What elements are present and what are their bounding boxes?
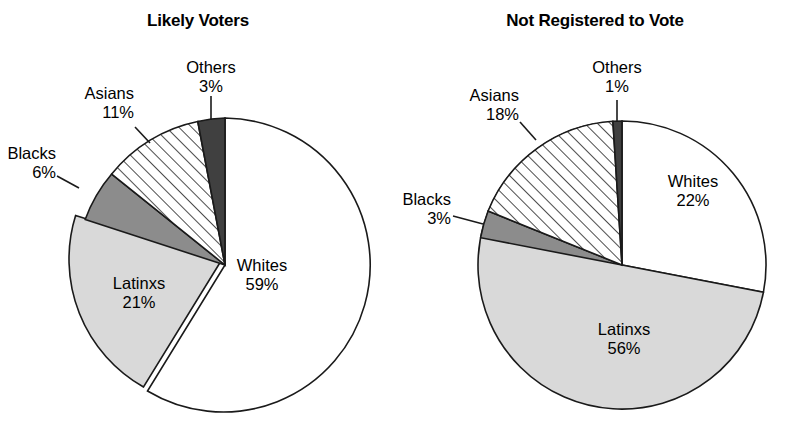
slice-label-others-name: Others	[567, 58, 667, 77]
slice-label-others: Others 3%	[161, 58, 261, 96]
slice-label-blacks: Blacks 6%	[0, 144, 56, 182]
slice-label-blacks-name: Blacks	[351, 190, 451, 209]
leader-line-blacks	[57, 176, 79, 188]
slice-label-whites-name: Whites	[638, 172, 748, 191]
slice-label-blacks-pct: 6%	[0, 163, 56, 182]
slice-label-others-pct: 1%	[567, 77, 667, 96]
slice-label-asians-pct: 18%	[419, 105, 519, 124]
slice-label-others-name: Others	[161, 58, 261, 77]
slice-label-blacks-name: Blacks	[0, 144, 56, 163]
slice-label-whites: Whites 22%	[638, 172, 748, 210]
slice-label-latinxs: Latinxs 21%	[84, 274, 194, 312]
slice-label-whites-name: Whites	[207, 256, 317, 275]
slice-label-latinxs-name: Latinxs	[569, 320, 679, 339]
slice-label-whites: Whites 59%	[207, 256, 317, 294]
slice-label-latinxs: Latinxs 56%	[569, 320, 679, 358]
slice-label-blacks: Blacks 3%	[351, 190, 451, 228]
slice-label-asians-pct: 11%	[34, 103, 134, 122]
slice-label-blacks-pct: 3%	[351, 209, 451, 228]
leader-line-asians	[135, 127, 150, 143]
slice-label-asians-name: Asians	[419, 86, 519, 105]
slice-label-latinxs-pct: 21%	[84, 293, 194, 312]
slice-label-latinxs-name: Latinxs	[84, 274, 194, 293]
slice-label-asians: Asians 11%	[34, 84, 134, 122]
slice-label-asians-name: Asians	[34, 84, 134, 103]
chart-panel-likely-voters: Likely Voters	[0, 0, 396, 447]
leader-line-asians	[520, 122, 536, 140]
slice-label-whites-pct: 59%	[207, 275, 317, 294]
slice-label-others: Others 1%	[567, 58, 667, 96]
pie-chart-figure: Likely Voters	[0, 0, 793, 447]
slice-label-asians: Asians 18%	[419, 86, 519, 124]
leader-line-blacks	[453, 216, 483, 224]
slice-label-whites-pct: 22%	[638, 191, 748, 210]
slice-label-latinxs-pct: 56%	[569, 339, 679, 358]
slice-label-others-pct: 3%	[161, 77, 261, 96]
chart-panel-not-registered-to-vote: Not Registered to Vote	[397, 0, 793, 447]
